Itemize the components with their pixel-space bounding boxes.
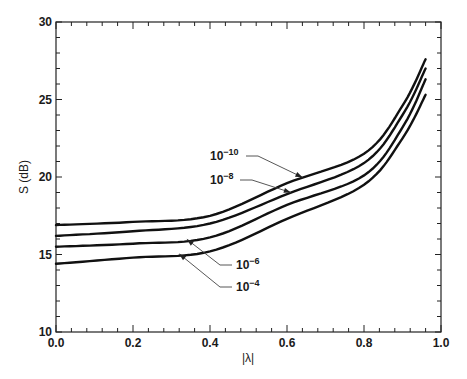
line-chart: 1015202530 0.00.20.40.60.81.0 S (dB) |λ|… [0,0,467,379]
curve-label: 10−8 [210,171,234,187]
x-tick-label: 0.4 [202,336,219,350]
x-tick-label: 1.0 [433,336,450,350]
leader-line [246,156,302,177]
x-tick-label: 0.8 [356,336,373,350]
y-axis-label: S (dB) [17,160,31,194]
x-tick-label: 0.2 [125,336,142,350]
series-curve-neg6 [56,79,426,247]
leader-line [179,254,232,287]
curve-label: 10−10 [210,147,239,163]
x-tick-label: 0.0 [48,336,65,350]
annotation-neg8: 10−8 [210,171,291,193]
series-curve-neg4 [56,95,426,264]
series-curves [56,59,426,264]
x-axis-label: |λ| [242,351,254,365]
series-curve-neg10 [56,59,426,225]
y-tick-labels: 1015202530 [39,15,53,339]
series-curve-neg8 [56,69,426,236]
curve-label: 10−4 [236,278,260,294]
x-tick-label: 0.6 [279,336,296,350]
y-tick-label: 30 [39,15,53,29]
leader-line [240,180,291,193]
curve-label: 10−6 [236,256,260,272]
arrowhead-icon [295,172,302,177]
y-tick-label: 25 [39,93,53,107]
arrowhead-icon [283,188,290,193]
y-tick-label: 15 [39,248,53,262]
y-tick-label: 20 [39,170,53,184]
annotation-neg6: 10−6 [187,239,260,272]
x-tick-labels: 0.00.20.40.60.81.0 [48,336,450,350]
